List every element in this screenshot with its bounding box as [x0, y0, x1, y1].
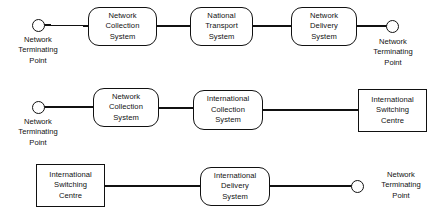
- node-label-line: International: [207, 94, 249, 105]
- label-line: Terminating: [370, 180, 432, 190]
- node-label-line: Switching: [54, 180, 87, 191]
- node-label-line: System: [311, 32, 337, 43]
- node-r1-national-transport-system[interactable]: National Transport System: [190, 7, 253, 46]
- node-label-line: System: [113, 113, 139, 124]
- label-line: Point: [363, 58, 423, 68]
- node-label-line: International: [214, 171, 256, 182]
- node-label-line: System: [222, 192, 248, 203]
- node-label-line: Network: [310, 11, 338, 22]
- label-line: Point: [370, 191, 432, 201]
- label-r2-ntp-left: Network Terminating Point: [8, 117, 68, 148]
- label-line: Network: [8, 117, 68, 127]
- node-label-line: National: [207, 11, 235, 22]
- node-r3-international-delivery-system[interactable]: International Delivery System: [200, 167, 270, 206]
- node-label-line: Network: [108, 11, 136, 22]
- node-label-line: System: [209, 32, 235, 43]
- label-line: Network: [370, 170, 432, 180]
- node-label-line: Transport: [205, 21, 238, 32]
- node-label-line: Collection: [106, 21, 140, 32]
- label-line: Network: [8, 35, 68, 45]
- node-label-line: International: [371, 95, 413, 106]
- node-r1-network-delivery-system[interactable]: Network Delivery System: [291, 7, 357, 46]
- node-label-line: Centre: [381, 116, 404, 127]
- label-r1-ntp-left: Network Terminating Point: [8, 35, 68, 66]
- node-label-line: Centre: [59, 191, 82, 202]
- node-label-line: System: [215, 115, 241, 126]
- label-line: Point: [8, 138, 68, 148]
- node-r2-network-collection-system[interactable]: Network Collection System: [93, 88, 159, 127]
- diagram-canvas: Network Terminating Point Network Collec…: [0, 0, 439, 224]
- label-r1-ntp-right: Network Terminating Point: [363, 37, 423, 68]
- node-r3-international-switching-centre[interactable]: International Switching Centre: [36, 164, 105, 207]
- node-label-line: Network: [112, 92, 140, 103]
- label-line: Terminating: [8, 127, 68, 137]
- node-circle-r1-ntp-right[interactable]: [386, 20, 399, 33]
- label-line: Terminating: [8, 45, 68, 55]
- node-r2-international-collection-system[interactable]: International Collection System: [193, 90, 263, 130]
- node-label-line: Collection: [109, 102, 143, 113]
- label-line: Network: [363, 37, 423, 47]
- node-circle-r3-ntp-right[interactable]: [351, 180, 364, 193]
- node-label-line: Collection: [211, 105, 245, 116]
- node-circle-r1-ntp-left[interactable]: [32, 19, 45, 32]
- node-circle-r2-ntp-left[interactable]: [32, 101, 45, 114]
- node-label-line: Delivery: [221, 181, 249, 192]
- node-r2-international-switching-centre[interactable]: International Switching Centre: [358, 89, 427, 132]
- node-label-line: Delivery: [310, 21, 338, 32]
- node-label-line: System: [110, 32, 136, 43]
- label-line: Point: [8, 56, 68, 66]
- label-line: Terminating: [363, 47, 423, 57]
- connector-r1-ntp-to-ncs: [44, 25, 89, 26]
- label-r3-ntp-right: Network Terminating Point: [370, 170, 432, 201]
- node-label-line: Switching: [376, 105, 409, 116]
- node-r1-network-collection-system[interactable]: Network Collection System: [88, 7, 157, 46]
- node-label-line: International: [49, 170, 91, 181]
